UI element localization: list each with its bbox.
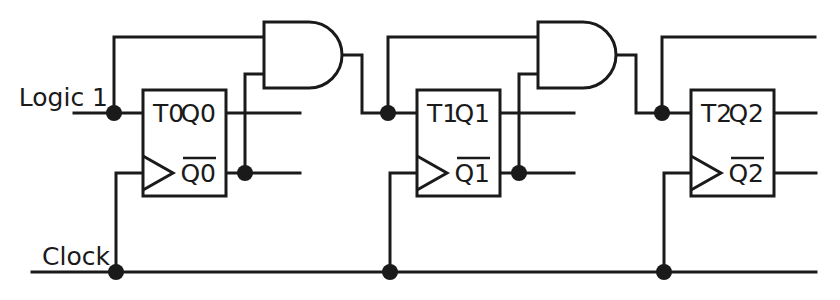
flipflop-t-label-ff0: T0 (152, 99, 184, 128)
junction-and0-out-to-t1 (380, 105, 396, 121)
wire-qbar0-to-and0 (245, 74, 264, 173)
wire-qbar1-to-and1 (519, 74, 538, 173)
junction-and1-out-to-t2 (654, 105, 670, 121)
flipflop-t-label-ff2: T2 (700, 99, 732, 128)
junction-qbar1-tap (511, 165, 527, 181)
flipflop-layer: T0Q0Q0T1Q1Q1T2Q2Q2 (143, 90, 774, 196)
junction-clock-tap-ff1 (382, 264, 398, 280)
flipflop-q-label-ff1: Q1 (454, 99, 490, 128)
wire-and0-output-to-t1 (342, 55, 417, 113)
wire-clock-branch-ff0 (116, 173, 143, 272)
wire-clock-branch-ff2 (664, 173, 691, 272)
and-gate-and0 (264, 22, 342, 88)
wire-and1-output-to-t2 (616, 55, 691, 113)
flipflop-qbar-label-ff2: Q2 (728, 159, 764, 188)
flipflop-q-label-ff2: Q2 (728, 99, 764, 128)
gate-layer (264, 22, 616, 88)
flipflop-qbar-label-ff1: Q1 (454, 159, 490, 188)
wire-clock-branch-ff1 (390, 173, 417, 272)
junction-clock-tap-ff0 (108, 264, 124, 280)
junction-clock-tap-ff2 (656, 264, 672, 280)
junction-logic1-tap-ff0 (106, 105, 122, 121)
logic-circuit-schematic: T0Q0Q0T1Q1Q1T2Q2Q2 Logic 1 Clock (0, 0, 840, 300)
flipflop-q-label-ff0: Q0 (180, 99, 216, 128)
label-layer: Logic 1 Clock (19, 83, 111, 271)
logic-1-label: Logic 1 (19, 83, 108, 112)
flipflop-qbar-label-ff0: Q0 (180, 159, 216, 188)
and-gate-and1 (538, 22, 616, 88)
flipflop-t-label-ff1: T1 (426, 99, 458, 128)
circuit-diagram-canvas: T0Q0Q0T1Q1Q1T2Q2Q2 Logic 1 Clock (0, 0, 840, 300)
clock-label: Clock (42, 242, 110, 271)
junction-qbar0-tap (237, 165, 253, 181)
